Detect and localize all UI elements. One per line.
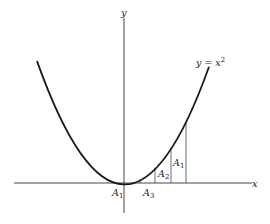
area-label-a2: A2 [157, 168, 169, 181]
y-axis-label: y [120, 7, 127, 18]
parabola-diagram: y x y = x2 A1 A3 A2 A1 [0, 0, 270, 224]
curve-label: y = x2 [195, 56, 225, 68]
x-axis-label: x [252, 178, 258, 189]
area-label-a1-origin: A1 [111, 187, 123, 200]
area-label-a3: A3 [142, 187, 154, 200]
area-label-a1-right: A1 [172, 157, 184, 170]
